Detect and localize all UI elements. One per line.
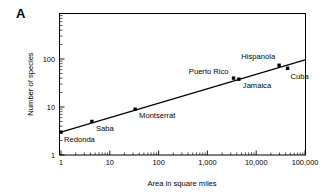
x-tick-label: 100,000 [292,158,319,167]
data-point-label: Saba [96,124,115,133]
x-axis-title: Area in square miles [147,179,216,188]
x-tick-label: 10,000 [245,158,268,167]
y-tick-label: 100 [43,55,55,64]
data-point-marker [237,77,240,80]
species-area-figure: A 1101001,00010,000100,000 110100 Redond… [0,0,332,192]
fit-line [61,60,305,132]
x-tick-label: 1,000 [198,158,217,167]
data-point-label: Jamaica [243,81,272,90]
data-point-marker [232,76,235,79]
y-axis-ticks: 110100 [43,55,65,160]
data-point-label: Puerto Rico [189,67,229,76]
y-axis-minor-ticks [60,16,63,141]
data-point-labels: RedondaSabaMontserratPuerto RicoJamaicaH… [64,52,310,144]
x-tick-label: 10 [106,158,114,167]
data-point-label: Cuba [291,72,310,81]
x-tick-label: 1 [59,158,63,167]
y-axis-title: Number of species [26,52,35,116]
data-point-label: Redonda [64,135,96,144]
data-point-marker [277,64,280,67]
data-point-marker [133,107,136,110]
data-point-label: Hispanola [241,52,276,61]
chart-canvas: 1101001,00010,000100,000 110100 RedondaS… [0,0,332,192]
y-tick-label: 1 [51,151,55,160]
x-tick-label: 100 [152,158,164,167]
data-point-label: Montserrat [139,111,176,120]
y-tick-label: 10 [47,103,55,112]
data-point-marker [90,120,93,123]
data-point-marker [59,130,62,133]
data-point-marker [286,67,289,70]
